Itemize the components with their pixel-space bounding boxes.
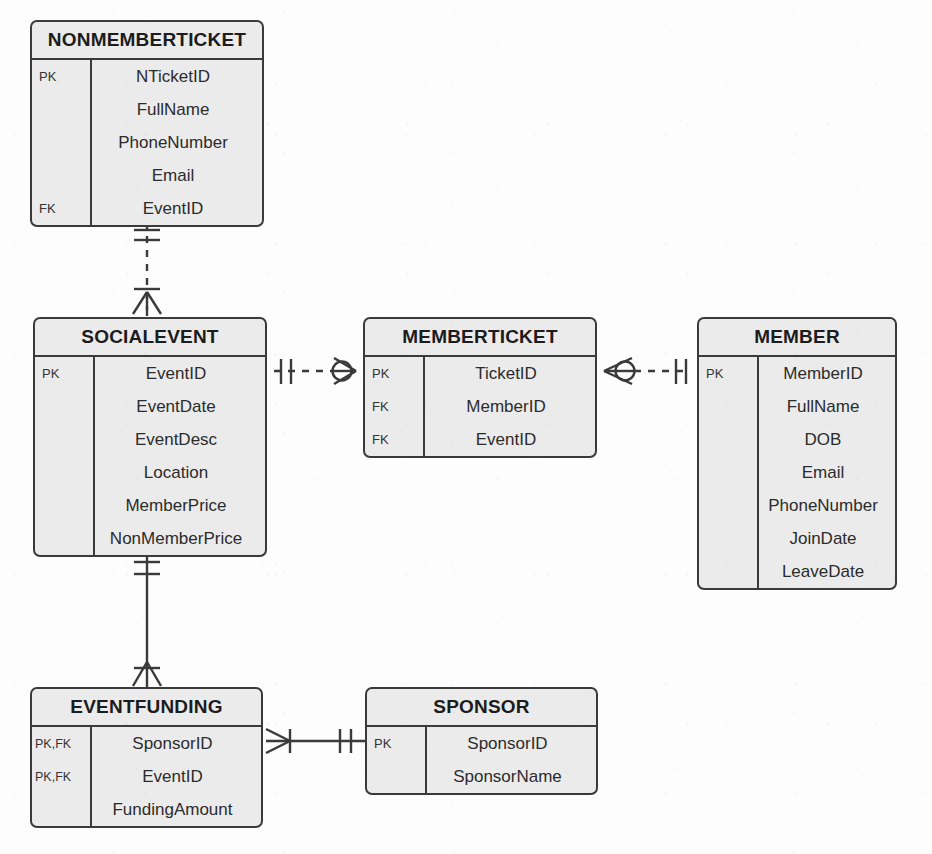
attribute-key-marker: FK <box>32 201 90 216</box>
attribute-name: SponsorID <box>90 734 261 754</box>
attribute-name: SponsorID <box>425 734 596 754</box>
attribute-row: LeaveDate <box>699 555 895 588</box>
entity-title-eventfunding: EVENTFUNDING <box>32 689 261 727</box>
attribute-row: Location <box>35 456 265 489</box>
entity-title-memberticket: MEMBERTICKET <box>365 319 595 357</box>
attribute-list-nonmemberticket: PKNTicketIDFullNamePhoneNumberEmailFKEve… <box>32 60 262 225</box>
attribute-row: Email <box>699 456 895 489</box>
connector-eventfunding-sponsor <box>266 729 368 753</box>
connector-socialevent-eventfunding <box>133 553 161 690</box>
entity-title-nonmemberticket: NONMEMBERTICKET <box>32 22 262 60</box>
attribute-name: EventID <box>93 364 265 384</box>
attribute-name: EventID <box>90 199 262 219</box>
entity-title-sponsor: SPONSOR <box>367 689 596 727</box>
connector-socialevent-memberticket <box>274 358 356 384</box>
attribute-row: PKNTicketID <box>32 60 262 93</box>
attribute-name: MemberPrice <box>93 496 265 516</box>
attribute-row: NonMemberPrice <box>35 522 265 555</box>
attribute-row: PKTicketID <box>365 357 595 390</box>
attribute-key-marker: PK,FK <box>32 737 90 751</box>
entity-memberticket[interactable]: MEMBERTICKETPKTicketIDFKMemberIDFKEventI… <box>363 317 597 458</box>
attribute-row: SponsorName <box>367 760 596 793</box>
attribute-list-memberticket: PKTicketIDFKMemberIDFKEventID <box>365 357 595 456</box>
attribute-name: DOB <box>757 430 895 450</box>
attribute-name: NonMemberPrice <box>93 529 265 549</box>
attribute-row: FundingAmount <box>32 793 261 826</box>
attribute-name: EventID <box>423 430 595 450</box>
attribute-row: FKMemberID <box>365 390 595 423</box>
attribute-row: PK,FKSponsorID <box>32 727 261 760</box>
entity-sponsor[interactable]: SPONSORPKSponsorIDSponsorName <box>365 687 598 795</box>
attribute-key-marker: PK <box>35 366 93 381</box>
entity-title-member: MEMBER <box>699 319 895 357</box>
attribute-key-marker: PK <box>699 366 757 381</box>
attribute-name: JoinDate <box>757 529 895 549</box>
attribute-name: MemberID <box>757 364 895 384</box>
attribute-name: PhoneNumber <box>757 496 895 516</box>
entity-eventfunding[interactable]: EVENTFUNDINGPK,FKSponsorIDPK,FKEventIDFu… <box>30 687 263 828</box>
attribute-row: JoinDate <box>699 522 895 555</box>
attribute-row: PKEventID <box>35 357 265 390</box>
attribute-row: PKSponsorID <box>367 727 596 760</box>
attribute-name: Email <box>90 166 262 186</box>
attribute-list-sponsor: PKSponsorIDSponsorName <box>367 727 596 793</box>
attribute-name: FullName <box>757 397 895 417</box>
attribute-list-eventfunding: PK,FKSponsorIDPK,FKEventIDFundingAmount <box>32 727 261 826</box>
attribute-key-marker: PK <box>32 69 90 84</box>
key-column-divider <box>93 357 95 555</box>
connector-memberticket-member <box>604 358 686 384</box>
attribute-key-marker: FK <box>365 432 423 447</box>
attribute-list-member: PKMemberIDFullNameDOBEmailPhoneNumberJoi… <box>699 357 895 588</box>
attribute-name: FullName <box>90 100 262 120</box>
attribute-key-marker: FK <box>365 399 423 414</box>
attribute-row: PK,FKEventID <box>32 760 261 793</box>
attribute-name: EventID <box>90 767 261 787</box>
attribute-row: DOB <box>699 423 895 456</box>
entity-member[interactable]: MEMBERPKMemberIDFullNameDOBEmailPhoneNum… <box>697 317 897 590</box>
attribute-name: PhoneNumber <box>90 133 262 153</box>
attribute-row: FKEventID <box>32 192 262 225</box>
attribute-name: Location <box>93 463 265 483</box>
attribute-key-marker: PK <box>365 366 423 381</box>
attribute-row: EventDate <box>35 390 265 423</box>
entity-nonmemberticket[interactable]: NONMEMBERTICKETPKNTicketIDFullNamePhoneN… <box>30 20 264 227</box>
attribute-row: FullName <box>32 93 262 126</box>
attribute-row: EventDesc <box>35 423 265 456</box>
attribute-name: MemberID <box>423 397 595 417</box>
key-column-divider <box>425 727 427 793</box>
entity-socialevent[interactable]: SOCIALEVENTPKEventIDEventDateEventDescLo… <box>33 317 267 557</box>
key-column-divider <box>90 60 92 225</box>
attribute-key-marker: PK,FK <box>32 770 90 784</box>
attribute-name: NTicketID <box>90 67 262 87</box>
attribute-name: LeaveDate <box>757 562 895 582</box>
connector-socialevent-nonmemberticket <box>133 222 161 316</box>
key-column-divider <box>90 727 92 826</box>
attribute-name: FundingAmount <box>90 800 261 820</box>
key-column-divider <box>757 357 759 588</box>
attribute-row: MemberPrice <box>35 489 265 522</box>
attribute-key-marker: PK <box>367 736 425 751</box>
attribute-row: PhoneNumber <box>699 489 895 522</box>
attribute-row: FKEventID <box>365 423 595 456</box>
attribute-name: EventDate <box>93 397 265 417</box>
key-column-divider <box>423 357 425 456</box>
attribute-row: PKMemberID <box>699 357 895 390</box>
er-diagram-canvas: SOCIALEVENT (vertical, dashed) --> MEMBE… <box>0 0 932 854</box>
attribute-row: PhoneNumber <box>32 126 262 159</box>
attribute-list-socialevent: PKEventIDEventDateEventDescLocationMembe… <box>35 357 265 555</box>
attribute-row: FullName <box>699 390 895 423</box>
attribute-name: Email <box>757 463 895 483</box>
attribute-name: SponsorName <box>425 767 596 787</box>
attribute-row: Email <box>32 159 262 192</box>
attribute-name: EventDesc <box>93 430 265 450</box>
attribute-name: TicketID <box>423 364 595 384</box>
entity-title-socialevent: SOCIALEVENT <box>35 319 265 357</box>
